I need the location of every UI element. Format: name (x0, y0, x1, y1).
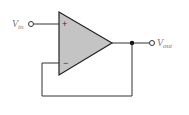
plus-sign: + (62, 19, 67, 29)
minus-sign: − (63, 58, 68, 68)
output-terminal (150, 41, 155, 46)
voltage-follower-diagram: Vin + − Vout (0, 0, 189, 115)
input-terminal (29, 22, 34, 27)
vout-label: Vout (157, 37, 173, 50)
vin-label: Vin (12, 18, 24, 31)
